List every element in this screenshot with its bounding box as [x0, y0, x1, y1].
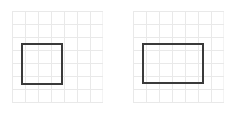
- left-shape-layer: [12, 11, 103, 103]
- right-shape-layer: [133, 11, 224, 103]
- right-shape-svg: [133, 11, 224, 103]
- square-shape: [22, 44, 62, 84]
- right-grid-panel: [133, 11, 224, 103]
- left-grid-panel: [12, 11, 103, 103]
- left-shape-svg: [12, 11, 103, 103]
- two-grid-shape-comparison-figure: [0, 0, 235, 115]
- rectangle-shape: [143, 44, 203, 83]
